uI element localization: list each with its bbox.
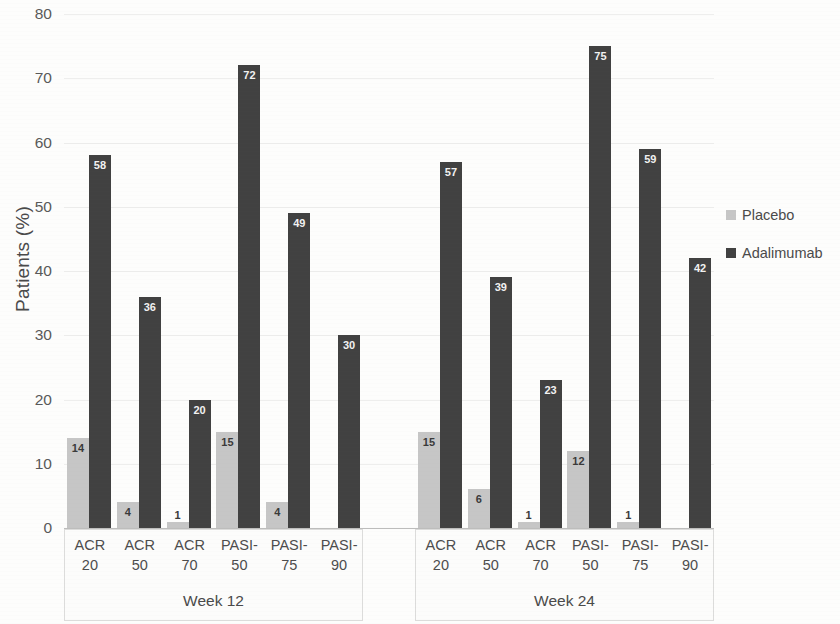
category-label: ACR20 [416, 536, 466, 575]
category-label-line2: 20 [416, 556, 466, 576]
legend-label: Placebo [742, 207, 794, 223]
bar-placebo-pasi-75: 4 [266, 502, 288, 528]
plot-area: 01020304050607080 1458436120157244930155… [64, 14, 714, 528]
bar-value-label: 39 [495, 282, 507, 293]
gridline [64, 143, 714, 144]
category-label: PASI-50 [215, 536, 265, 575]
category-label: PASI-50 [566, 536, 616, 575]
gridline [64, 271, 714, 272]
category-label: PASI-75 [615, 536, 665, 575]
bar-value-label: 49 [293, 218, 305, 229]
y-axis-tick-label: 70 [35, 69, 52, 87]
bar-value-label: 58 [94, 160, 106, 171]
bar-value-label: 4 [274, 507, 280, 518]
bar-value-label: 4 [125, 507, 131, 518]
category-label-line2: 70 [165, 556, 215, 576]
y-axis-tick-label: 50 [35, 198, 52, 216]
y-axis-tick-label: 20 [35, 391, 52, 409]
category-label-line1: PASI- [572, 537, 609, 553]
gridline [64, 14, 714, 15]
y-axis-tick-label: 40 [35, 262, 52, 280]
category-label-line2: 75 [615, 556, 665, 576]
category-label-line1: PASI- [622, 537, 659, 553]
bar-placebo-acr-50: 6 [468, 489, 490, 528]
gridline [64, 464, 714, 465]
bar-value-label: 75 [594, 51, 606, 62]
category-label-line2: 50 [115, 556, 165, 576]
bar-value-label: 12 [572, 456, 584, 467]
bar-placebo-acr-20: 15 [418, 432, 440, 528]
bar-adalimumab-pasi-90: 42 [689, 258, 711, 528]
bar-adalimumab-acr-20: 57 [440, 162, 462, 528]
bar-adalimumab-acr-50: 39 [490, 277, 512, 528]
category-label-line1: ACR [525, 537, 556, 553]
chart-legend: PlaceboAdalimumab [726, 207, 838, 283]
bar-placebo-pasi-50: 15 [216, 432, 238, 528]
category-label-line2: 50 [466, 556, 516, 576]
group-title: Week 24 [416, 592, 713, 610]
category-label: ACR70 [165, 536, 215, 575]
y-axis-tick-label: 10 [35, 455, 52, 473]
category-label-line2: 70 [516, 556, 566, 576]
bar-placebo-acr-70: 1 [518, 522, 540, 528]
legend-label: Adalimumab [742, 245, 823, 261]
category-label-line2: 50 [215, 556, 265, 576]
bar-value-label: 1 [625, 510, 631, 521]
legend-item-adalimumab[interactable]: Adalimumab [726, 245, 838, 261]
legend-item-placebo[interactable]: Placebo [726, 207, 838, 223]
gridline [64, 78, 714, 79]
legend-swatch-icon [726, 248, 736, 258]
bar-value-label: 15 [423, 437, 435, 448]
category-label-line1: ACR [124, 537, 155, 553]
legend-swatch-icon [726, 210, 736, 220]
gridline [64, 400, 714, 401]
category-label: ACR70 [516, 536, 566, 575]
category-label-line2: 20 [65, 556, 115, 576]
bar-value-label: 72 [243, 70, 255, 81]
bar-value-label: 59 [644, 154, 656, 165]
category-label-line1: PASI- [672, 537, 709, 553]
category-group-band: ACR20ACR50ACR70PASI-50PASI-75PASI-90Week… [64, 529, 363, 621]
bar-value-label: 20 [193, 405, 205, 416]
bar-adalimumab-pasi-90: 30 [338, 335, 360, 528]
category-label-line2: 90 [665, 556, 715, 576]
bar-adalimumab-acr-20: 58 [89, 155, 111, 528]
bar-placebo-pasi-50: 12 [567, 451, 589, 528]
category-label-line1: PASI- [321, 537, 358, 553]
category-label-line1: ACR [75, 537, 106, 553]
category-label: PASI-75 [264, 536, 314, 575]
y-axis-tick-label: 80 [35, 5, 52, 23]
category-label-line2: 90 [314, 556, 364, 576]
y-axis-tick-label: 60 [35, 134, 52, 152]
category-group-band: ACR20ACR50ACR70PASI-50PASI-75PASI-90Week… [415, 529, 714, 621]
category-label: ACR50 [466, 536, 516, 575]
bar-placebo-acr-50: 4 [117, 502, 139, 528]
y-axis-tick-label: 30 [35, 326, 52, 344]
bar-placebo-pasi-75: 1 [617, 522, 639, 528]
bar-value-label: 30 [343, 340, 355, 351]
bar-adalimumab-acr-70: 23 [540, 380, 562, 528]
group-title: Week 12 [65, 592, 362, 610]
bar-value-label: 14 [72, 443, 84, 454]
bar-value-label: 36 [144, 302, 156, 313]
gridline [64, 207, 714, 208]
bar-value-label: 42 [694, 263, 706, 274]
category-label: ACR50 [115, 536, 165, 575]
category-label-line1: ACR [426, 537, 457, 553]
bar-value-label: 6 [476, 494, 482, 505]
y-axis-tick-label: 0 [43, 519, 52, 537]
bar-value-label: 1 [526, 510, 532, 521]
bar-value-label: 1 [175, 510, 181, 521]
category-label: PASI-90 [665, 536, 715, 575]
bar-value-label: 15 [221, 437, 233, 448]
y-axis-title: Patients (%) [12, 159, 34, 359]
bar-placebo-acr-20: 14 [67, 438, 89, 528]
category-label-line2: 75 [264, 556, 314, 576]
bar-placebo-acr-70: 1 [167, 522, 189, 528]
bar-adalimumab-pasi-75: 59 [639, 149, 661, 528]
bar-value-label: 23 [544, 385, 556, 396]
category-label-line1: ACR [475, 537, 506, 553]
bar-value-label: 57 [445, 167, 457, 178]
category-label: PASI-90 [314, 536, 364, 575]
category-label-line2: 50 [566, 556, 616, 576]
